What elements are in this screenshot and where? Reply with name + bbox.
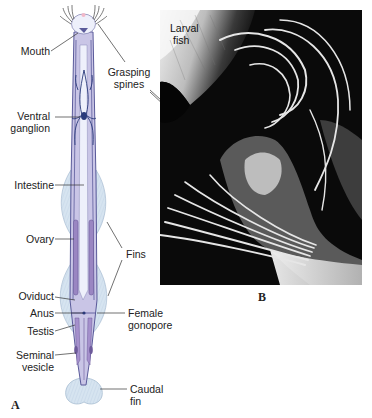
- label-female-gonopore-line1: Female: [128, 307, 172, 319]
- label-intestine: Intestine: [14, 179, 54, 191]
- label-larval-fish-line2: fish: [170, 34, 199, 46]
- sem-photo-rendering: [160, 10, 362, 285]
- label-oviduct: Oviduct: [18, 290, 54, 302]
- label-grasping-spines-line2: spines: [105, 78, 153, 90]
- label-larval-fish-line1: Larval: [170, 22, 199, 34]
- label-mouth: Mouth: [21, 45, 50, 57]
- seminal-vesicle-right: [89, 346, 93, 354]
- label-seminal-vesicle-line1: Seminal: [16, 349, 54, 361]
- ovary-right: [89, 220, 94, 295]
- ovary-left: [74, 220, 79, 295]
- label-anus: Anus: [30, 307, 54, 319]
- label-grasping-spines: Grasping spines: [105, 66, 153, 90]
- label-female-gonopore: Female gonopore: [128, 307, 172, 331]
- label-female-gonopore-line2: gonopore: [128, 319, 172, 331]
- label-caudal-fin-line1: Caudal: [130, 383, 163, 395]
- label-testis: Testis: [27, 325, 54, 337]
- label-caudal-fin-line2: fin: [130, 395, 163, 407]
- label-larval-fish: Larval fish: [170, 22, 199, 46]
- label-ventral-ganglion-line1: Ventral: [10, 110, 50, 122]
- label-ventral-ganglion-line2: ganglion: [10, 122, 50, 134]
- label-seminal-vesicle-line2: vesicle: [16, 361, 54, 373]
- panel-letter-b: B: [258, 290, 266, 305]
- label-fins: Fins: [126, 248, 146, 260]
- ventral-ganglion: [81, 112, 87, 120]
- label-caudal-fin: Caudal fin: [130, 383, 163, 407]
- label-ovary: Ovary: [26, 233, 54, 245]
- sem-photo-grasping-spines: Larval fish: [160, 10, 362, 285]
- label-seminal-vesicle: Seminal vesicle: [16, 349, 54, 373]
- label-ventral-ganglion: Ventral ganglion: [10, 110, 50, 134]
- label-grasping-spines-line1: Grasping: [105, 66, 153, 78]
- panel-letter-a: A: [11, 398, 20, 413]
